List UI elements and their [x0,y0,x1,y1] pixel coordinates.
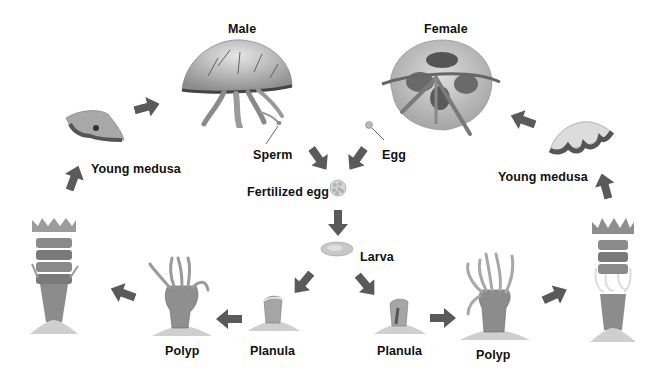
egg-illustration [364,120,394,146]
label-fertilized-egg: Fertilized egg [247,185,329,199]
label-sperm: Sperm [253,148,292,162]
jellyfish-life-cycle-diagram: Male Female [0,0,666,379]
arrow-right-icon [430,308,456,328]
young-medusa-right-illustration [546,120,614,156]
arrow-left-icon [107,279,138,307]
arrow-left-icon [216,309,242,329]
arrow-up-icon [592,171,618,201]
label-male: Male [228,22,256,36]
label-young-medusa-right: Young medusa [498,170,588,184]
label-planula-left: Planula [250,344,295,358]
label-planula-right: Planula [377,344,422,358]
polyp-left-illustration [148,256,214,338]
sperm-illustration [258,110,310,150]
young-medusa-left-illustration [64,106,126,146]
planula-right-illustration [372,296,428,336]
arrow-down-icon [341,143,372,176]
label-polyp-right: Polyp [476,348,511,362]
female-medusa-illustration [380,38,502,138]
arrow-left-icon [507,106,538,134]
label-polyp-left: Polyp [165,344,200,358]
strobila-left-illustration [28,214,80,336]
label-young-medusa-left: Young medusa [91,162,181,176]
arrow-right-icon [539,280,571,309]
arrow-right-icon [132,94,162,120]
strobila-right-illustration [588,214,638,344]
arrow-down-icon [328,210,348,236]
arrow-up-icon [60,162,88,193]
fertilized-egg-illustration [328,178,348,198]
larva-illustration [319,240,355,258]
label-female: Female [424,22,468,36]
planula-left-illustration [246,293,302,333]
label-larva: Larva [360,250,394,264]
polyp-right-illustration [458,250,532,342]
label-egg: Egg [382,148,406,162]
